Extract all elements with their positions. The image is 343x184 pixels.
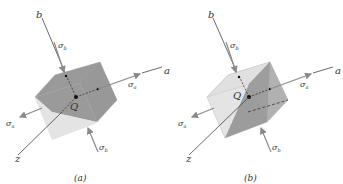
axis-a-line-b xyxy=(313,67,333,73)
label-axis-z-b: z xyxy=(185,153,192,164)
panel-b: b a z σb σa σa σb Q (b) xyxy=(178,9,341,183)
dot-b-a xyxy=(65,75,67,77)
label-axis-a-a: a xyxy=(164,65,170,76)
caption-b: (b) xyxy=(244,173,257,183)
label-sigma-b-bottom-b: σb xyxy=(272,143,281,153)
label-axis-a-b: a xyxy=(335,65,341,76)
label-axis-b-a: b xyxy=(36,9,42,20)
label-sigma-a-right-b: σa xyxy=(300,80,308,90)
arrow-sigma-a-left-a xyxy=(20,108,42,117)
arrow-sigma-a-left-b xyxy=(192,108,214,117)
label-sigma-a-left-a: σa xyxy=(6,119,14,129)
arrow-sigma-b-bottom-a xyxy=(88,128,98,152)
point-q-a xyxy=(74,95,78,99)
label-sigma-b-bottom-a: σb xyxy=(99,143,108,153)
label-point-q-b: Q xyxy=(233,90,241,101)
label-point-q-a: Q xyxy=(70,101,78,112)
label-sigma-a-left-b: σa xyxy=(178,119,186,129)
axis-a-line-a xyxy=(142,67,162,73)
label-sigma-a-right-a: σa xyxy=(128,80,136,90)
label-sigma-b-top-b: σb xyxy=(230,41,239,51)
arrow-sigma-b-bottom-b xyxy=(261,128,271,152)
label-axis-b-b: b xyxy=(208,9,214,20)
label-sigma-b-top-a: σb xyxy=(58,41,67,51)
dot-b-b xyxy=(238,76,240,78)
caption-a: (a) xyxy=(74,173,87,183)
stress-element-figure: b a z σb σa σa σb Q (a) b a xyxy=(0,0,343,184)
panel-a: b a z σb σa σa σb Q (a) xyxy=(6,9,170,183)
label-axis-z-a: z xyxy=(14,153,21,164)
